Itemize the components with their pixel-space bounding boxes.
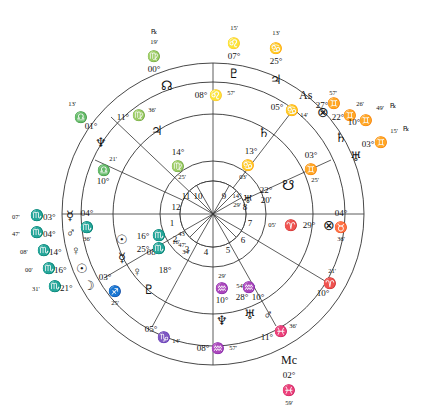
cusp-top-min: 57' bbox=[227, 90, 235, 97]
inner-uranus-t-deg: 14° bbox=[232, 193, 241, 200]
outer-saturn-sign: ♊ bbox=[359, 115, 373, 126]
outer-jupiter-min: 13' bbox=[272, 30, 280, 37]
outer-pluto-min: 15' bbox=[230, 25, 238, 32]
north-node-icon: ☊ bbox=[161, 79, 173, 92]
part-of-fortune-icon: ⊗ bbox=[317, 106, 329, 120]
outer-ascendant-sign: ♊ bbox=[327, 98, 341, 109]
inner-jupiter-sign: ♍ bbox=[171, 161, 185, 172]
cusp-lowerright-min: 21' bbox=[328, 268, 336, 275]
cusp-leftupper-deg: 10° bbox=[97, 177, 110, 186]
cusp-right-sign: ♉ bbox=[334, 222, 348, 233]
outer-neptune-min: 13' bbox=[68, 101, 76, 108]
house-number-4: 4 bbox=[204, 248, 209, 257]
inner-sun-min: 43' bbox=[178, 231, 186, 238]
outer-ascendant-min: 57' bbox=[329, 90, 337, 97]
cusp-bottomright-min: 36' bbox=[289, 323, 297, 330]
house-number-5: 5 bbox=[226, 246, 231, 255]
inner-fortune-sign: ♈ bbox=[284, 220, 298, 231]
uranus-icon: ♅ bbox=[350, 150, 362, 163]
list-sun-min: 00' bbox=[25, 267, 33, 274]
inner-sun-deg: 16° bbox=[137, 232, 150, 241]
saturn-icon: ♄ bbox=[335, 131, 347, 144]
inner-uranus-icon: ♅ bbox=[244, 308, 256, 321]
list-moon-min: 31' bbox=[32, 286, 40, 293]
outer-north-node-retro: ℞ bbox=[151, 29, 157, 36]
cusp-leftupper-min: 21' bbox=[109, 156, 117, 163]
inner-mercury-deg: 25° bbox=[137, 245, 150, 254]
outer-jupiter-sign: ♋ bbox=[269, 43, 283, 54]
outer-neptune-deg: 01° bbox=[85, 122, 98, 131]
inner-mars-icon: ♂ bbox=[263, 308, 273, 321]
outer-north-node-deg: 00° bbox=[148, 65, 161, 74]
cusp-upperleft-sign: ♍ bbox=[132, 110, 146, 121]
cusp-left-min: 36' bbox=[83, 236, 91, 243]
outer-north-node-min: 19' bbox=[150, 39, 158, 46]
cusp-topright-sign: ♋ bbox=[285, 105, 299, 116]
cusp-upperleft-min: 36' bbox=[148, 107, 156, 114]
inner-neptune-sign: ♒ bbox=[215, 283, 229, 294]
sun-icon: ☉ bbox=[76, 262, 88, 275]
cusp-lowerright-deg: 10° bbox=[317, 289, 330, 298]
cusp-leftupper-sign: ♎ bbox=[97, 165, 111, 176]
inner-fortune-min: 05' bbox=[268, 222, 276, 229]
outer-midheaven-deg: 02° bbox=[283, 371, 296, 380]
house-number-2: 2 bbox=[173, 235, 178, 244]
cusp-bottom-min: 57' bbox=[229, 345, 237, 352]
cusp-bottomright-deg: 11° bbox=[261, 333, 273, 342]
cusp-bottom-deg: 08° bbox=[197, 344, 210, 353]
house-number-7: 7 bbox=[248, 219, 253, 228]
moon-icon: ☽ bbox=[83, 279, 95, 292]
house-number-3: 3 bbox=[185, 245, 190, 254]
midheaven-label: Mc bbox=[281, 354, 297, 366]
list-mercury-min: 07' bbox=[12, 214, 20, 221]
outer-pluto-deg: 07° bbox=[228, 52, 241, 61]
list-venus-min: 08' bbox=[20, 249, 28, 256]
inner-saturn-sign: ♋ bbox=[241, 160, 255, 171]
cusp-topright-deg: 05° bbox=[271, 103, 284, 112]
inner-uranus-deg: 28° bbox=[236, 293, 249, 302]
cusp-lowerleft-sign: ♐ bbox=[108, 286, 122, 297]
inner-neptune-min: 29' bbox=[218, 273, 226, 280]
inner-mercury-sign: ♏ bbox=[152, 243, 166, 254]
outer-uranus-deg: 03° bbox=[362, 140, 375, 149]
list-mars-sign: ♏ bbox=[30, 227, 44, 238]
list-sun-deg: 16° bbox=[54, 266, 67, 275]
inner-neptune-icon: ♆ bbox=[216, 314, 228, 327]
list-mars-deg: 04° bbox=[43, 230, 56, 239]
inner-saturn-deg: 13° bbox=[245, 147, 258, 156]
house-number-10: 10 bbox=[194, 192, 203, 201]
house-number-9: 9 bbox=[222, 192, 227, 201]
inner-south-node-min: 20' bbox=[261, 196, 272, 205]
list-mars-min: 47' bbox=[12, 231, 20, 238]
cusp-top-deg: 08° bbox=[195, 91, 208, 100]
mercury-icon: ☿ bbox=[66, 209, 74, 222]
inner-jupiter-icon: ♃ bbox=[151, 124, 163, 137]
house-number-1: 1 bbox=[170, 219, 175, 228]
cusp-upperright-min: 25' bbox=[311, 177, 319, 184]
list-mercury-sign: ♏ bbox=[30, 210, 44, 221]
cusp-upperright-deg: 03° bbox=[305, 151, 318, 160]
cusp-upperright-sign: ♊ bbox=[304, 164, 318, 175]
outer-pluto-sign: ♌ bbox=[227, 38, 241, 49]
jupiter-icon: ♃ bbox=[270, 73, 282, 86]
outer-uranus-min: 15' bbox=[390, 128, 398, 135]
outer-saturn-min: 49' bbox=[376, 105, 384, 112]
cusp-left-sign: ♏ bbox=[80, 222, 94, 233]
outer-jupiter-deg: 25° bbox=[270, 57, 283, 66]
outer-fortune-min: 26' bbox=[356, 101, 364, 108]
cusp-lowerleft-min: 25' bbox=[111, 300, 119, 307]
inner-pluto-deg: 18° bbox=[159, 266, 172, 275]
neptune-icon: ♆ bbox=[95, 136, 107, 149]
inner-uranus-sign: ♒ bbox=[242, 282, 256, 293]
inner-sun-icon: ☉ bbox=[116, 233, 128, 246]
cusp-bottomleft-deg: 05° bbox=[145, 325, 158, 334]
inner-sun-sign: ♏ bbox=[152, 230, 166, 241]
outer-midheaven-sign: ♓ bbox=[282, 385, 296, 396]
cusp-upperleft-deg: 11° bbox=[117, 113, 129, 122]
cusp-topright-min: 14' bbox=[300, 112, 308, 119]
venus-icon: ♀ bbox=[71, 244, 81, 257]
inner-part-of-fortune-icon: ⊗ bbox=[323, 219, 335, 233]
inner-mercury-icon: ☿ bbox=[118, 251, 126, 264]
inner-south-node-deg: 22° bbox=[260, 186, 273, 195]
house-number-11: 11 bbox=[182, 192, 191, 201]
